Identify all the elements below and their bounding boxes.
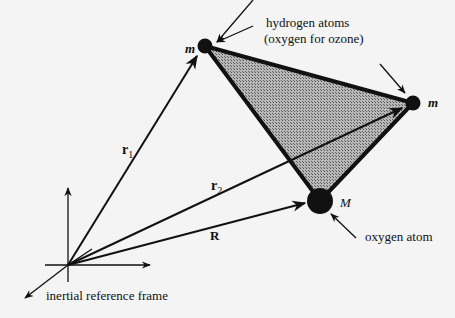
label-r2: r2 <box>211 178 222 196</box>
atom-top <box>198 39 213 54</box>
label-mass-top: m <box>185 41 195 56</box>
label-oxygen-atom: oxygen atom <box>365 229 433 244</box>
molecule-triangle <box>205 46 413 201</box>
label-mass-right: m <box>428 95 438 110</box>
label-hydrogen-1: hydrogen atoms <box>266 15 349 30</box>
vector-r2 <box>68 108 402 265</box>
label-inertial-frame: inertial reference frame <box>46 288 168 303</box>
atom-oxygen <box>307 188 333 214</box>
label-R: R <box>210 228 220 243</box>
inertial-frame-axes <box>25 188 150 298</box>
molecule-diagram: hydrogen atoms (oxygen for ozone) m m M … <box>0 0 455 318</box>
label-mass-bottom: M <box>339 195 352 210</box>
vector-R <box>68 203 305 265</box>
atom-right <box>406 96 421 111</box>
label-hydrogen-2: (oxygen for ozone) <box>264 31 364 46</box>
label-r1: r1 <box>122 142 133 160</box>
